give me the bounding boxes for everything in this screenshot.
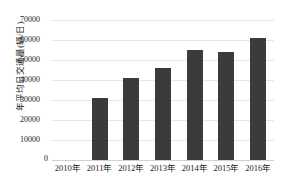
- x-axis-tick-label: 2013年: [150, 163, 176, 173]
- y-axis-tick-label: 30000: [0, 96, 40, 104]
- bar: [187, 50, 203, 160]
- gridline: [52, 160, 274, 161]
- y-axis-tick-label: 50000: [0, 56, 40, 64]
- bar-slot: [115, 20, 147, 160]
- bar-slot: [52, 20, 84, 160]
- bar-slot: [84, 20, 116, 160]
- y-axis-title: 年平均日交通量(辆/日): [16, 8, 25, 124]
- bar: [92, 98, 108, 160]
- y-axis-tick-label: 40000: [0, 76, 40, 84]
- y-axis-zero-label: 0: [36, 155, 48, 163]
- x-axis-tick-label: 2015年: [213, 163, 239, 173]
- bar-slot: [242, 20, 274, 160]
- bar: [218, 52, 234, 160]
- bar: [123, 78, 139, 160]
- bar-slot: [147, 20, 179, 160]
- bar-slot: [211, 20, 243, 160]
- bar-slot: [179, 20, 211, 160]
- y-axis-tick-label: 70000: [0, 16, 40, 24]
- x-axis-tick-label: 2016年: [245, 163, 271, 173]
- plot-area: 10000200003000040000500006000070000: [52, 20, 274, 160]
- y-axis-tick-label: 10000: [0, 136, 40, 144]
- x-axis-tick-label: 2014年: [182, 163, 208, 173]
- y-axis-tick-label: 60000: [0, 36, 40, 44]
- bar: [250, 38, 266, 160]
- y-axis-tick-label: 20000: [0, 116, 40, 124]
- bars-group: [52, 20, 274, 160]
- x-axis-tick-label: 2010年: [55, 163, 81, 173]
- bar-chart: 年平均日交通量(辆/日) 0 1000020000300004000050000…: [0, 0, 282, 183]
- x-axis-tick-labels: 2010年2011年2012年2013年2014年2015年2016年: [52, 163, 274, 179]
- x-axis-tick-label: 2012年: [118, 163, 144, 173]
- bar: [155, 68, 171, 160]
- x-axis-tick-label: 2011年: [87, 163, 113, 173]
